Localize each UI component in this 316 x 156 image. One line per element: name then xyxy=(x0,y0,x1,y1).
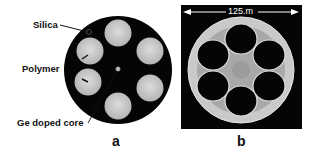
polymer-hole xyxy=(105,93,132,120)
polymer-hole xyxy=(137,75,164,102)
fiber-schematic xyxy=(0,0,175,156)
core-label: Ge doped core xyxy=(17,117,84,128)
panel-b-letter: b xyxy=(237,133,246,149)
panel-b: 125.m b xyxy=(178,0,316,156)
polymer-label: Polymer xyxy=(22,63,60,74)
fiber-micrograph xyxy=(178,0,316,156)
ge-core xyxy=(116,67,120,71)
polymer-hole xyxy=(77,38,104,65)
polymer-hole xyxy=(105,20,132,47)
panel-a-letter: a xyxy=(112,133,120,149)
silica-label: Silica xyxy=(33,19,58,30)
scale-bar-label: 125.m xyxy=(228,6,253,16)
polymer-hole xyxy=(137,38,164,65)
panel-a: Silica Polymer Ge doped core a xyxy=(0,0,175,156)
